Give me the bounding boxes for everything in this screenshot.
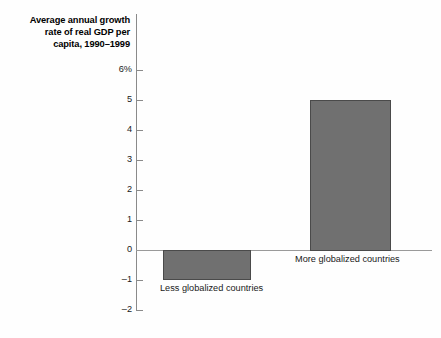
y-tick-mark [137, 280, 143, 281]
y-tick-label-1: 1 [104, 215, 132, 225]
y-tick-label-6: 6% [104, 65, 132, 75]
y-tick-label-4: 4 [104, 125, 132, 135]
y-tick-label-neg1: –1 [104, 275, 132, 285]
y-tick-mark [137, 310, 143, 311]
y-tick-label-text: 4 [106, 125, 132, 134]
y-tick-mark [137, 160, 143, 161]
y-tick-label-text: 1 [106, 215, 132, 224]
bar-more-globalized [310, 100, 391, 251]
y-tick-mark [137, 190, 143, 191]
y-tick-label-2: 2 [104, 185, 132, 195]
y-axis-line [136, 14, 137, 311]
y-tick-label-3: 3 [104, 155, 132, 165]
y-tick-label-text: 2 [106, 185, 132, 194]
y-tick-label-text: 5 [106, 95, 132, 104]
bar-label-less-globalized: Less globalized countries [160, 283, 263, 293]
plot-area: 6% 5 4 3 2 1 0 –1 –2 Less globalized cou… [0, 0, 441, 338]
y-tick-label-neg2: –2 [104, 305, 132, 315]
y-tick-label-text: 3 [106, 155, 132, 164]
y-tick-mark [137, 220, 143, 221]
y-tick-mark [137, 70, 143, 71]
y-tick-label-5: 5 [104, 95, 132, 105]
y-tick-label-text: –2 [106, 305, 132, 314]
y-tick-mark [137, 100, 143, 101]
bar-less-globalized [163, 250, 251, 280]
y-tick-label-0: 0 [104, 245, 132, 255]
y-tick-label-text: 6% [106, 65, 132, 74]
y-tick-mark [137, 130, 143, 131]
bar-label-more-globalized: More globalized countries [295, 254, 400, 264]
y-tick-label-text: 0 [106, 245, 132, 254]
bar-chart-figure: Average annual growth rate of real GDP p… [0, 0, 441, 338]
y-tick-label-text: –1 [106, 275, 132, 284]
